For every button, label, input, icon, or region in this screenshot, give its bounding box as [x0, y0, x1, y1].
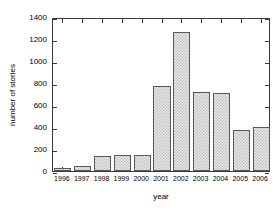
x-tick-label: 2001 — [151, 174, 171, 184]
x-tick-label: 2005 — [230, 174, 250, 184]
x-tick-label: 2003 — [191, 174, 211, 184]
x-axis-tick-labels: 1996199719981999200020012002200320042005… — [52, 174, 270, 186]
x-axis-title: year — [52, 192, 270, 202]
x-tick-label: 1997 — [72, 174, 92, 184]
x-tick-label: 1999 — [111, 174, 131, 184]
y-tick-label: 800 — [17, 80, 47, 88]
x-tick-label: 2006 — [250, 174, 270, 184]
bar — [233, 130, 250, 171]
bar — [54, 168, 71, 171]
y-tick-label: 200 — [17, 146, 47, 154]
plot-area — [52, 18, 270, 172]
y-axis-tick-labels: 0200400600800100012001400 — [17, 0, 47, 215]
bar — [173, 32, 190, 171]
y-tick-label: 1200 — [17, 36, 47, 44]
x-tick-label: 1996 — [52, 174, 72, 184]
bars-group — [53, 19, 269, 171]
y-tick-label: 1000 — [17, 58, 47, 66]
bar — [193, 92, 210, 171]
x-tick-label: 2002 — [171, 174, 191, 184]
bar — [213, 93, 230, 171]
bar — [253, 127, 270, 171]
bar — [153, 86, 170, 171]
y-tick-label: 1400 — [17, 14, 47, 22]
bar — [134, 155, 151, 172]
x-tick-label: 1998 — [92, 174, 112, 184]
bar — [74, 166, 91, 171]
y-tick-label: 400 — [17, 124, 47, 132]
x-tick-label: 2004 — [211, 174, 231, 184]
y-tick-label: 0 — [17, 168, 47, 176]
y-tick-label: 600 — [17, 102, 47, 110]
bar — [94, 156, 111, 171]
bar — [114, 155, 131, 171]
bar-chart: number of stories 0200400600800100012001… — [0, 0, 279, 215]
x-tick-label: 2000 — [131, 174, 151, 184]
